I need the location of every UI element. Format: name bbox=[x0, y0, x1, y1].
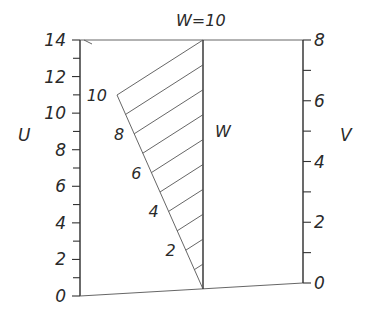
w-diag-label: 2 bbox=[166, 241, 176, 260]
u-axis-label: U bbox=[18, 125, 31, 145]
v-tick-label: 4 bbox=[314, 152, 325, 172]
corner-mark bbox=[84, 40, 92, 44]
u-tick-label: 0 bbox=[55, 286, 66, 306]
w-diag-label: 10 bbox=[87, 86, 107, 105]
u-axis: 02468101214 bbox=[44, 30, 80, 306]
w-diag-label: 8 bbox=[114, 125, 124, 144]
w-axis-label: W bbox=[215, 122, 232, 141]
u-tick-label: 4 bbox=[55, 213, 66, 233]
hatch-line bbox=[160, 165, 203, 193]
hatch-line bbox=[134, 90, 203, 134]
hatch-line bbox=[194, 264, 203, 270]
u-tick-label: 14 bbox=[44, 30, 66, 50]
hatch-line bbox=[143, 115, 203, 154]
u-tick-label: 2 bbox=[55, 249, 66, 269]
baseline bbox=[80, 283, 303, 296]
v-tick-label: 0 bbox=[314, 273, 325, 293]
w-diag-label: 6 bbox=[131, 164, 141, 183]
v-axis: 02468 bbox=[303, 30, 325, 293]
v-tick-label: 2 bbox=[314, 212, 325, 232]
v-axis-label: V bbox=[340, 125, 353, 145]
hatch-line bbox=[151, 140, 203, 173]
u-tick-label: 12 bbox=[44, 67, 66, 87]
u-tick-label: 8 bbox=[55, 140, 66, 160]
hatch-line bbox=[177, 214, 203, 231]
v-tick-label: 6 bbox=[314, 91, 325, 111]
top-label: W=10 bbox=[176, 11, 226, 30]
hatch-line bbox=[117, 40, 203, 95]
hatch-line bbox=[169, 189, 203, 211]
v-tick-label: 8 bbox=[314, 30, 325, 50]
u-tick-label: 10 bbox=[44, 103, 66, 123]
nomogram-diagram: 02468101214 246810 02468 U W V W=10 bbox=[0, 0, 370, 326]
u-tick-label: 6 bbox=[55, 176, 66, 196]
w-diagonal-scale: 246810 bbox=[87, 40, 203, 289]
hatch-line bbox=[186, 239, 203, 250]
hatch-line bbox=[126, 65, 203, 115]
w-diag-label: 4 bbox=[148, 202, 158, 221]
